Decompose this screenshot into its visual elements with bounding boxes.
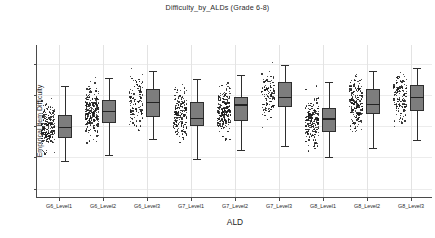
jitter-point xyxy=(398,108,399,109)
x-axis-tick-mark xyxy=(411,198,412,201)
jitter-point xyxy=(397,87,398,88)
jitter-point xyxy=(403,90,404,91)
jitter-point xyxy=(401,86,402,87)
jitter-point xyxy=(399,105,400,106)
jitter-point xyxy=(396,95,397,96)
jitter-point xyxy=(393,88,394,89)
x-axis-tick-mark xyxy=(279,198,280,201)
jitter-point xyxy=(394,102,395,103)
x-axis-tick-mark xyxy=(323,198,324,201)
jitter-point xyxy=(401,101,402,102)
x-axis-tick-mark xyxy=(191,198,192,201)
jitter-point xyxy=(404,111,405,112)
jitter-point xyxy=(401,81,402,82)
x-axis-tick-mark xyxy=(147,198,148,201)
jitter-point xyxy=(402,118,403,119)
figure-canvas: Difficulty_by_ALDs (Grade 6-8) Empirical… xyxy=(0,0,435,238)
jitter-point xyxy=(401,122,402,123)
jitter-point xyxy=(406,87,407,88)
jitter-point xyxy=(403,100,404,101)
jitter-point xyxy=(393,100,394,101)
jitter-point xyxy=(406,85,407,86)
jitter-point xyxy=(394,126,395,127)
whisker-cap xyxy=(413,68,420,69)
jitter-point xyxy=(393,98,394,99)
whisker-cap xyxy=(413,140,420,141)
jitter-point xyxy=(394,95,395,96)
jitter-point xyxy=(396,103,397,104)
jitter-point xyxy=(402,99,403,100)
jitter-point xyxy=(404,76,405,77)
jitter-point xyxy=(404,120,405,121)
jitter-point xyxy=(404,95,405,96)
jitter-point xyxy=(403,116,404,117)
jitter-point xyxy=(406,79,407,80)
chart-title: Difficulty_by_ALDs (Grade 6-8) xyxy=(0,3,435,12)
jitter-point xyxy=(399,86,400,87)
jitter-point xyxy=(400,117,401,118)
x-axis-label: ALD xyxy=(37,217,433,227)
boxplot-group[interactable] xyxy=(37,45,432,197)
jitter-point xyxy=(399,119,400,120)
x-axis-tick-mark xyxy=(103,198,104,201)
jitter-point xyxy=(394,120,395,121)
jitter-point xyxy=(398,91,399,92)
median-line xyxy=(410,97,425,98)
figure-caption xyxy=(0,228,435,237)
plot-area: Empirical Item Difficulty ALD 420-2-4G6_… xyxy=(36,45,432,198)
jitter-point xyxy=(405,104,406,105)
jitter-point xyxy=(394,92,395,93)
jitter-point xyxy=(393,86,394,87)
jitter-point xyxy=(400,72,401,73)
jitter-point xyxy=(400,115,401,116)
jitter-point xyxy=(399,93,400,94)
jitter-point xyxy=(405,114,406,115)
jitter-point xyxy=(397,101,398,102)
jitter-point xyxy=(397,78,398,79)
jitter-point xyxy=(400,101,401,102)
jitter-point xyxy=(399,76,400,77)
jitter-point xyxy=(396,105,397,106)
jitter-point xyxy=(405,110,406,111)
jitter-point xyxy=(400,91,401,92)
x-axis-tick-mark xyxy=(235,198,236,201)
jitter-point xyxy=(405,93,406,94)
jitter-point xyxy=(396,114,397,115)
jitter-point xyxy=(405,96,406,97)
jitter-point xyxy=(406,105,407,106)
jitter-point xyxy=(398,110,399,111)
x-axis-tick-mark xyxy=(367,198,368,201)
x-axis-tick-mark xyxy=(59,198,60,201)
jitter-point xyxy=(399,121,400,122)
jitter-point xyxy=(396,82,397,83)
jitter-point xyxy=(396,110,397,111)
